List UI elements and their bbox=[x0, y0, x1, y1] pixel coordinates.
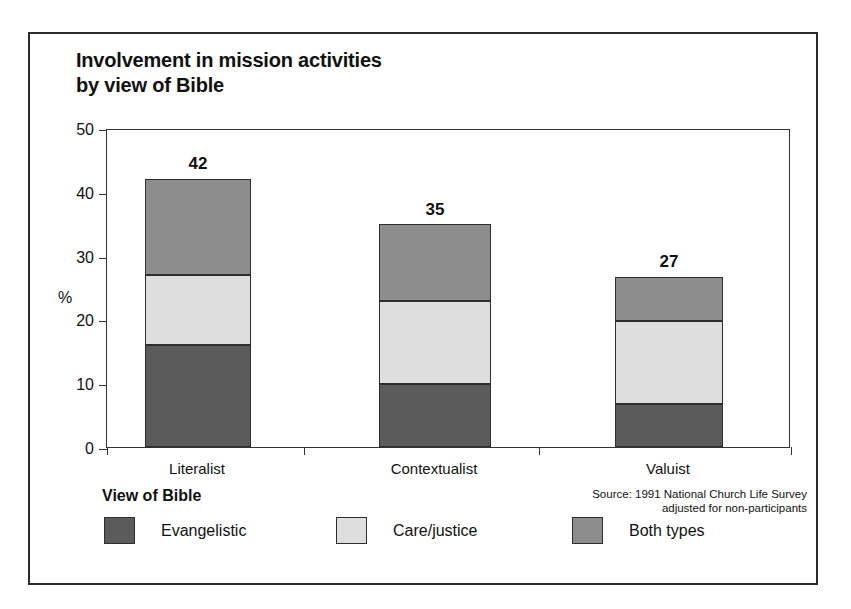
x-axis-label-valuist: Valuist bbox=[646, 460, 690, 477]
x-tick-end bbox=[791, 447, 792, 455]
legend-label-both-types: Both types bbox=[629, 522, 705, 540]
bar-segment-valuist-both-types[interactable] bbox=[615, 277, 723, 321]
legend-label-evangelistic: Evangelistic bbox=[161, 522, 246, 540]
bar-total-valuist: 27 bbox=[660, 252, 679, 272]
y-tick-label-40: 40 bbox=[76, 185, 94, 203]
legend-item-both-types[interactable]: Both types bbox=[572, 517, 705, 544]
source-note: Source: 1991 National Church Life Survey… bbox=[592, 487, 807, 515]
legend-item-care-justice[interactable]: Care/justice bbox=[336, 517, 477, 544]
plot-area: 50 40 30 20 10 0 42 35 bbox=[106, 129, 790, 448]
bar-valuist[interactable] bbox=[615, 277, 723, 447]
x-axis-label-contextualist: Contextualist bbox=[391, 460, 478, 477]
x-tick-literalist bbox=[304, 447, 305, 455]
legend-item-evangelistic[interactable]: Evangelistic bbox=[104, 517, 246, 544]
x-axis-label-literalist: Literalist bbox=[169, 460, 225, 477]
chart-title: Involvement in mission activities by vie… bbox=[76, 48, 576, 98]
bar-segment-contextualist-both-types[interactable] bbox=[379, 224, 491, 301]
legend-swatch-care-justice bbox=[336, 517, 367, 544]
bar-total-literalist: 42 bbox=[189, 154, 208, 174]
bar-segment-contextualist-evangelistic[interactable] bbox=[379, 384, 491, 447]
bar-segment-valuist-evangelistic[interactable] bbox=[615, 404, 723, 447]
x-tick-start bbox=[107, 447, 108, 455]
y-axis-title: % bbox=[58, 289, 72, 307]
legend-label-care-justice: Care/justice bbox=[393, 522, 477, 540]
legend-title: View of Bible bbox=[102, 487, 201, 505]
y-tick-label-10: 10 bbox=[76, 376, 94, 394]
bar-contextualist[interactable] bbox=[379, 224, 491, 447]
bar-segment-literalist-both-types[interactable] bbox=[145, 179, 251, 275]
legend-swatch-evangelistic bbox=[104, 517, 135, 544]
y-tick-label-0: 0 bbox=[85, 440, 94, 458]
bar-segment-contextualist-care-justice[interactable] bbox=[379, 301, 491, 384]
bar-literalist[interactable] bbox=[145, 179, 251, 447]
x-tick-contextualist bbox=[539, 447, 540, 455]
y-tick-label-50: 50 bbox=[76, 121, 94, 139]
bar-total-contextualist: 35 bbox=[426, 200, 445, 220]
bar-segment-literalist-care-justice[interactable] bbox=[145, 275, 251, 345]
bar-segment-valuist-care-justice[interactable] bbox=[615, 321, 723, 404]
y-tick-label-30: 30 bbox=[76, 249, 94, 267]
legend: Evangelistic Care/justice Both types bbox=[104, 517, 764, 557]
bar-segment-literalist-evangelistic[interactable] bbox=[145, 345, 251, 447]
y-tick-label-20: 20 bbox=[76, 312, 94, 330]
legend-swatch-both-types bbox=[572, 517, 603, 544]
